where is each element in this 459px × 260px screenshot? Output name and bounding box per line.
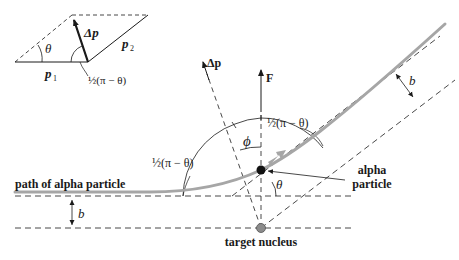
delta-p-label: Δp [207,56,222,70]
alpha-particle-dot [257,166,266,175]
delta-p-direction-dashed [207,74,261,228]
inset-half-angle-leader [80,62,88,76]
inset-delta-p-label: Δp [83,25,99,40]
svg-text:p: p [44,66,52,81]
theta-label: θ [276,177,283,192]
left-half-angle-label: ½(π − θ) [152,156,194,170]
inset-theta-label: θ [45,41,52,56]
upper-arc-segment [235,118,261,124]
b-right-label: b [409,73,416,88]
parallelogram-left-dashed [15,15,72,62]
rutherford-scattering-diagram: θ Δp p 1 p 2 ½(π − θ) [0,0,459,260]
inset-half-angle-label: ½(π − θ) [88,74,126,87]
svg-text:p: p [121,36,129,51]
nucleus-label: target nucleus [225,235,298,249]
alpha-label-line1: alpha [358,163,387,177]
target-nucleus-dot [257,224,266,233]
phi-label: ϕ [243,133,251,149]
inset-p1-label: p 1 [44,66,57,83]
svg-text:1: 1 [53,74,57,83]
force-label: F [266,71,273,85]
svg-text:2: 2 [130,44,134,53]
path-label: path of alpha particle [15,177,126,191]
inset-half-angle-arc [71,46,82,62]
alpha-label-line2: particle [352,177,392,191]
momentum-inset: θ Δp p 1 p 2 ½(π − θ) [15,15,148,87]
inset-theta-arc [38,45,42,62]
b-left-label: b [78,206,85,221]
right-half-angle-label: ½(π − θ) [267,116,309,130]
inset-p2-label: p 2 [121,36,134,53]
